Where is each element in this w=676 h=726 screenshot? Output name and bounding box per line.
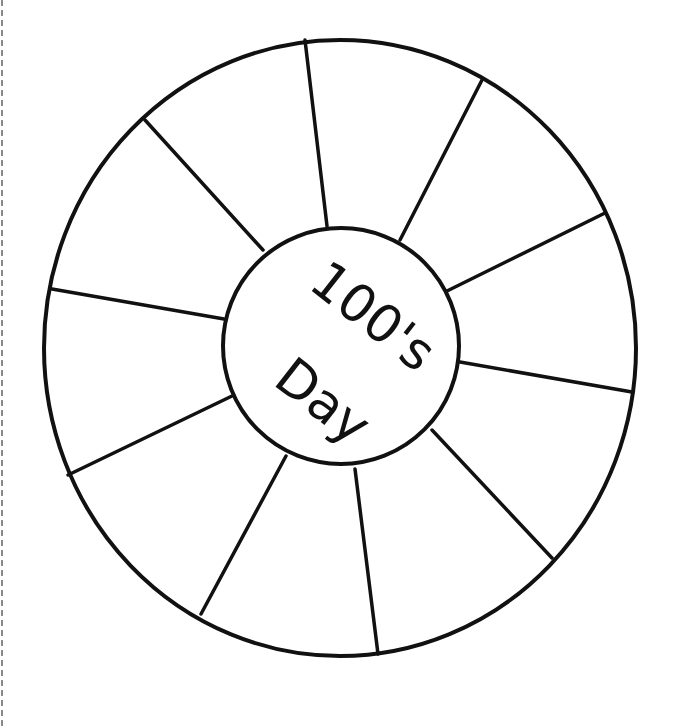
spoke	[68, 396, 232, 475]
hundreds-day-wheel: 100's Day	[0, 0, 676, 726]
title-line-2: Day	[264, 346, 382, 457]
spoke	[145, 120, 263, 250]
spoke	[201, 456, 286, 614]
spokes	[52, 40, 632, 654]
spoke	[447, 213, 605, 291]
spoke	[52, 289, 224, 319]
spoke	[460, 362, 632, 392]
spoke	[400, 80, 482, 240]
outer-circle	[44, 40, 636, 656]
spoke	[355, 469, 378, 654]
spoke	[432, 430, 552, 558]
spoke	[305, 40, 327, 226]
title-group-2: Day	[264, 346, 382, 457]
